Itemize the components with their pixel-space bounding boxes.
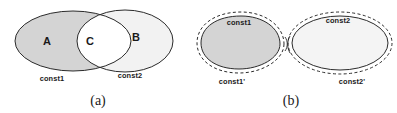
panel-b-const2-label: const2 bbox=[326, 16, 350, 25]
panel-b-const1-label: const1 bbox=[227, 18, 251, 27]
panel-b-const1-prime-label: const1' bbox=[219, 77, 245, 86]
panel-b-diagram: const1 const1' const2 const2' bbox=[196, 0, 397, 113]
panel-b-left-shape: const1 const1' bbox=[197, 12, 284, 86]
panel-a-diagram: A C B const1 const2 (a) bbox=[0, 0, 196, 113]
panel-a-const2-label: const2 bbox=[118, 71, 142, 80]
panel-b: const1 const1' const2 const2' bbox=[196, 0, 397, 113]
region-b-label: B bbox=[132, 31, 140, 43]
panel-b-const2-prime-label: const2' bbox=[339, 77, 365, 86]
panel-a: A C B const1 const2 (a) bbox=[0, 0, 196, 113]
panel-a-const1-label: const1 bbox=[40, 74, 64, 83]
region-a-label: A bbox=[43, 35, 51, 47]
panel-b-caption: (b) bbox=[283, 93, 300, 109]
region-c-label: C bbox=[86, 35, 94, 47]
panel-a-caption: (a) bbox=[90, 93, 106, 109]
panel-b-right-shape: const2 const2' bbox=[288, 12, 392, 86]
figure-root: A C B const1 const2 (a) const1 const1' bbox=[0, 0, 397, 113]
